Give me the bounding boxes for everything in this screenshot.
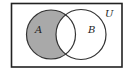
- set-b-label: B: [87, 24, 95, 35]
- set-a-label: A: [34, 24, 42, 35]
- universe-label: U: [105, 8, 114, 19]
- venn-diagram: A B U: [0, 0, 126, 75]
